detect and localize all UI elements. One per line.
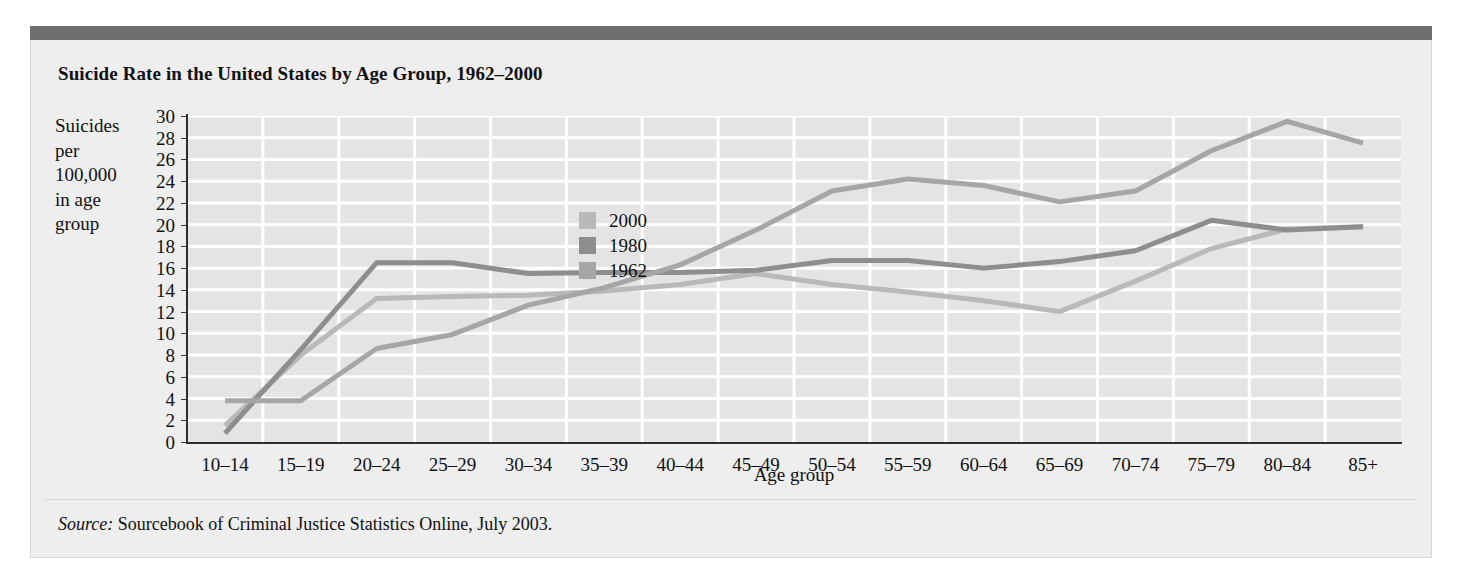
x-axis-line	[186, 442, 1402, 444]
chart-legend: 200019801962	[579, 208, 647, 283]
source-label: Source:	[58, 514, 113, 534]
legend-label: 2000	[609, 211, 647, 230]
page-title: Suicide Rate in the United States by Age…	[58, 63, 543, 85]
legend-item[interactable]: 1980	[579, 233, 647, 258]
y-tick-mark	[181, 442, 186, 443]
y-tick-mark	[181, 203, 186, 204]
legend-item[interactable]: 1962	[579, 258, 647, 283]
source-divider	[45, 499, 1417, 500]
y-tick-label: 12	[115, 303, 175, 322]
y-tick-label: 18	[115, 237, 175, 256]
y-tick-mark	[181, 312, 186, 313]
plot-area-wrapper: 024681012141618202224262830 10–1415–1920…	[187, 116, 1401, 448]
y-tick-label: 26	[115, 150, 175, 169]
y-tick-mark	[181, 225, 186, 226]
y-tick-label: 14	[115, 281, 175, 300]
y-tick-label: 0	[115, 433, 175, 452]
x-axis-title: Age group	[187, 464, 1401, 486]
y-tick-mark	[181, 420, 186, 421]
y-tick-mark	[181, 116, 186, 117]
legend-item[interactable]: 2000	[579, 208, 647, 233]
y-tick-label: 24	[115, 172, 175, 191]
figure-container: Suicide Rate in the United States by Age…	[30, 26, 1432, 558]
y-tick-mark	[181, 355, 186, 356]
y-tick-label: 20	[115, 216, 175, 235]
y-tick-label: 22	[115, 194, 175, 213]
y-tick-mark	[181, 377, 186, 378]
y-tick-label: 16	[115, 259, 175, 278]
y-tick-label: 28	[115, 129, 175, 148]
y-tick-label: 2	[115, 411, 175, 430]
figure-top-bar	[30, 26, 1432, 40]
y-axis-line	[186, 114, 188, 444]
y-tick-mark	[181, 290, 186, 291]
y-tick-label: 30	[115, 107, 175, 126]
y-tick-label: 4	[115, 390, 175, 409]
y-tick-label: 6	[115, 368, 175, 387]
legend-swatch-icon	[579, 237, 596, 254]
legend-label: 1962	[609, 261, 647, 280]
y-tick-mark	[181, 399, 186, 400]
legend-swatch-icon	[579, 212, 596, 229]
plot-area	[187, 116, 1401, 442]
y-tick-mark	[181, 333, 186, 334]
figure-body: Suicide Rate in the United States by Age…	[30, 40, 1432, 558]
legend-label: 1980	[609, 236, 647, 255]
series-lines	[187, 116, 1401, 442]
y-tick-mark	[181, 181, 186, 182]
y-tick-mark	[181, 246, 186, 247]
y-tick-label: 8	[115, 346, 175, 365]
y-tick-mark	[181, 268, 186, 269]
legend-swatch-icon	[579, 262, 596, 279]
y-tick-mark	[181, 159, 186, 160]
source-text: Sourcebook of Criminal Justice Statistic…	[113, 514, 552, 534]
source-note: Source: Sourcebook of Criminal Justice S…	[58, 514, 552, 535]
y-tick-label: 10	[115, 324, 175, 343]
y-tick-mark	[181, 138, 186, 139]
